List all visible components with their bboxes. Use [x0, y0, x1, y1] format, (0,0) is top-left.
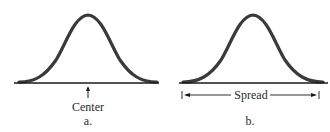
panel-a [14, 15, 159, 98]
caption-a: a. [78, 114, 98, 129]
spread-arrowhead-left-icon [184, 93, 190, 97]
center-arrow-head-icon [86, 86, 90, 91]
normal-curve-a [19, 15, 157, 82]
normal-curve-b [183, 15, 323, 82]
center-label: Center [68, 100, 108, 115]
panel-b [179, 15, 328, 99]
figure-canvas [0, 0, 330, 132]
spread-label: Spread [231, 88, 271, 103]
spread-arrowhead-right-icon [311, 93, 317, 97]
caption-b: b. [240, 114, 260, 129]
